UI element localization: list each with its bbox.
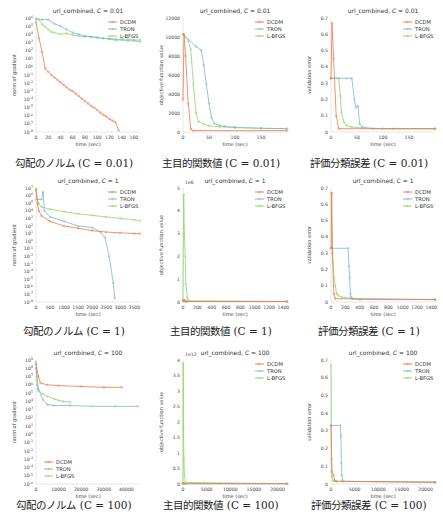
- y-axis-label: norm of gradient: [11, 224, 18, 266]
- svg-text:20000: 20000: [74, 487, 89, 492]
- caption-parameter: (C = 100): [371, 499, 426, 511]
- svg-text:10-8: 10-8: [24, 299, 33, 305]
- svg-text:1000: 1000: [249, 305, 261, 310]
- svg-text:10-1: 10-1: [24, 246, 33, 252]
- series-line-dcdm: [331, 426, 435, 483]
- chart-caption: 評価分類誤差 (C = 100): [295, 497, 443, 512]
- svg-text:0.5: 0.5: [321, 393, 328, 398]
- svg-text:20000: 20000: [270, 487, 285, 492]
- svg-text:2: 2: [177, 420, 180, 425]
- svg-text:100: 100: [231, 135, 240, 140]
- svg-text:0: 0: [35, 135, 38, 140]
- svg-text:600: 600: [370, 305, 379, 310]
- legend-item-dcdm: DCDM: [56, 459, 72, 465]
- svg-text:10-5: 10-5: [24, 473, 33, 479]
- chart-grad_c001: url_combined, C = 0.01106105104103102101…: [0, 0, 148, 172]
- chart-title: url_combined, C = 0.01: [348, 7, 419, 15]
- caption-parameter: (C = 100): [76, 499, 131, 511]
- svg-text:4: 4: [177, 208, 180, 213]
- chart-caption: 主目的関数値 (C = 0.01): [147, 155, 295, 170]
- svg-text:1000: 1000: [397, 305, 409, 310]
- svg-text:8000: 8000: [168, 54, 180, 59]
- svg-text:6000: 6000: [168, 73, 180, 78]
- svg-text:150: 150: [405, 135, 414, 140]
- svg-text:4: 4: [177, 358, 180, 363]
- svg-text:10-2: 10-2: [24, 448, 33, 454]
- svg-text:0.6: 0.6: [321, 202, 328, 207]
- chart-title: url_combined, C = 1: [204, 177, 265, 185]
- series-line-l-bfgs: [331, 78, 435, 128]
- svg-text:10-6: 10-6: [24, 284, 33, 290]
- svg-text:0: 0: [325, 300, 328, 305]
- chart-title: url_combined, C = 0.01: [200, 7, 271, 15]
- legend-item-dcdm: DCDM: [415, 189, 431, 195]
- plot-area: url_combined, C = 1001e1200.511.522.533.…: [147, 342, 295, 502]
- svg-text:101: 101: [25, 230, 33, 236]
- legend: DCDMTRONL-BFGS: [255, 189, 285, 209]
- caption-parameter: (C = 0.01): [75, 157, 133, 169]
- legend: DCDMTRONL-BFGS: [44, 459, 74, 479]
- x-axis-label: time (sec): [75, 141, 100, 147]
- svg-text:109: 109: [25, 357, 33, 363]
- x-axis-label: time (sec): [370, 311, 395, 317]
- svg-text:800: 800: [236, 305, 245, 310]
- svg-text:104: 104: [25, 31, 33, 37]
- caption-title: 主目的関数値: [170, 325, 230, 337]
- svg-text:104: 104: [25, 398, 33, 404]
- svg-text:60: 60: [70, 135, 76, 140]
- caption-title: 勾配のノルム: [16, 499, 76, 511]
- plot-area: url_combined, C = 10000.10.20.30.40.50.6…: [295, 342, 443, 502]
- svg-text:0.1: 0.1: [321, 113, 328, 118]
- svg-text:0: 0: [330, 305, 333, 310]
- chart-caption: 評価分類誤差 (C = 1): [295, 323, 443, 338]
- svg-text:105: 105: [25, 390, 33, 396]
- series-line-tron: [331, 248, 435, 299]
- svg-text:10-3: 10-3: [24, 261, 33, 267]
- y-axis-label: objective function value: [158, 215, 165, 275]
- caption-title: 勾配のノルム: [23, 325, 83, 337]
- caption-parameter: (C = 1): [83, 325, 125, 337]
- plot-area: url_combined, C = 11e6012345020040060080…: [147, 170, 295, 330]
- svg-text:1.5: 1.5: [173, 435, 180, 440]
- legend: DCDMTRONL-BFGS: [403, 361, 433, 381]
- svg-text:0: 0: [330, 487, 333, 492]
- svg-text:103: 103: [25, 215, 33, 221]
- legend-item-dcdm: DCDM: [415, 361, 431, 367]
- chart-title: url_combined, C = 0.01: [53, 7, 124, 15]
- svg-text:2.5: 2.5: [173, 404, 180, 409]
- chart-title: url_combined, C = 100: [54, 349, 123, 357]
- series-line-tron: [36, 192, 115, 298]
- svg-text:10-3: 10-3: [24, 88, 33, 94]
- svg-text:0.3: 0.3: [321, 81, 328, 86]
- svg-text:40: 40: [58, 135, 64, 140]
- caption-parameter: (C = 0.01): [370, 157, 428, 169]
- svg-text:0: 0: [177, 300, 180, 305]
- svg-text:0: 0: [35, 487, 38, 492]
- caption-title: 評価分類誤差: [310, 157, 370, 169]
- svg-text:0.5: 0.5: [173, 466, 180, 471]
- svg-text:10-6: 10-6: [24, 113, 33, 119]
- svg-text:200: 200: [341, 305, 350, 310]
- caption-parameter: (C = 1): [378, 325, 420, 337]
- svg-text:1200: 1200: [263, 305, 275, 310]
- svg-text:100: 100: [25, 64, 33, 70]
- chart-title: url_combined, C = 1: [57, 177, 118, 185]
- svg-text:40000: 40000: [119, 487, 134, 492]
- svg-text:5: 5: [177, 186, 180, 191]
- svg-text:400: 400: [207, 305, 216, 310]
- svg-text:0.4: 0.4: [321, 234, 328, 239]
- chart-caption: 勾配のノルム (C = 100): [0, 497, 148, 512]
- svg-text:0.5: 0.5: [321, 218, 328, 223]
- svg-text:100: 100: [379, 135, 388, 140]
- svg-text:0.3: 0.3: [321, 251, 328, 256]
- legend-item-tron: TRON: [414, 26, 430, 32]
- svg-text:0.4: 0.4: [321, 64, 328, 69]
- caption-parameter: (C = 0.01): [222, 157, 280, 169]
- svg-text:50: 50: [354, 135, 360, 140]
- svg-text:1400: 1400: [426, 305, 438, 310]
- svg-text:200: 200: [193, 305, 202, 310]
- chart-caption: 勾配のノルム (C = 1): [0, 323, 148, 338]
- svg-text:0.3: 0.3: [321, 428, 328, 433]
- svg-text:100: 100: [25, 431, 33, 437]
- legend: DCDMTRONL-BFGS: [255, 361, 285, 381]
